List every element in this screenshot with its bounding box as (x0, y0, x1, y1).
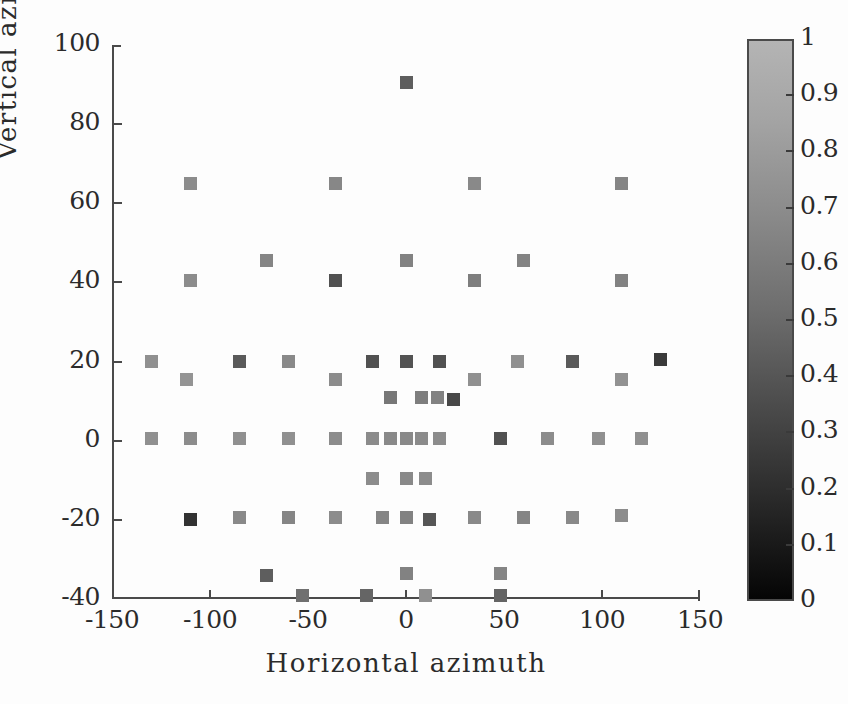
scatter-point (423, 513, 436, 526)
scatter-point (180, 373, 193, 386)
y-tick-mark (113, 519, 122, 521)
axis-right-corner-tick (698, 590, 700, 601)
scatter-point (419, 589, 432, 602)
scatter-point (400, 254, 413, 267)
scatter-point (615, 177, 628, 190)
scatter-point (635, 432, 648, 445)
scatter-point (400, 76, 413, 89)
scatter-point (329, 177, 342, 190)
colorbar-tick-mark (786, 263, 794, 265)
y-tick-label: 20 (5, 345, 100, 374)
x-tick-mark (209, 590, 211, 599)
scatter-point (494, 567, 507, 580)
y-tick-mark (113, 123, 122, 125)
figure-root: -40-20020406080100 -150-100-50050100150 … (0, 0, 848, 704)
colorbar-tick-label: 0.5 (800, 303, 838, 332)
scatter-point (329, 274, 342, 287)
colorbar-tick-label: 0.6 (800, 247, 838, 276)
y-tick-mark (113, 281, 122, 283)
colorbar-tick-label: 0.7 (800, 191, 838, 220)
scatter-point (415, 391, 428, 404)
colorbar-tick-label: 0.9 (800, 78, 838, 107)
y-tick-label: 0 (5, 424, 100, 453)
scatter-point (329, 511, 342, 524)
scatter-point (384, 391, 397, 404)
scatter-point (260, 569, 273, 582)
colorbar-tick-label: 0.8 (800, 134, 838, 163)
scatter-point (329, 373, 342, 386)
scatter-point (433, 355, 446, 368)
scatter-point (184, 432, 197, 445)
colorbar-tick-label: 1 (800, 22, 815, 51)
scatter-point (592, 432, 605, 445)
scatter-point (376, 511, 389, 524)
x-tick-label: -150 (62, 605, 162, 634)
x-tick-mark (405, 590, 407, 599)
scatter-point (366, 355, 379, 368)
x-tick-label: -50 (258, 605, 358, 634)
colorbar-tick-mark (786, 207, 794, 209)
scatter-point (615, 509, 628, 522)
scatter-point (366, 432, 379, 445)
scatter-point (233, 511, 246, 524)
scatter-point (282, 511, 295, 524)
x-tick-label: 150 (650, 605, 750, 634)
scatter-point (233, 432, 246, 445)
scatter-point (494, 432, 507, 445)
y-tick-mark (113, 361, 122, 363)
scatter-point (566, 511, 579, 524)
scatter-point (447, 393, 460, 406)
scatter-point (468, 274, 481, 287)
scatter-point (615, 373, 628, 386)
scatter-point (329, 432, 342, 445)
scatter-point (494, 589, 507, 602)
colorbar-tick-mark (786, 150, 794, 152)
x-tick-mark (601, 590, 603, 599)
scatter-point (654, 353, 667, 366)
scatter-point (541, 432, 554, 445)
scatter-point (282, 432, 295, 445)
scatter-point (400, 355, 413, 368)
colorbar-tick-label: 0.3 (800, 415, 838, 444)
scatter-point (400, 511, 413, 524)
colorbar-tick-mark (786, 375, 794, 377)
scatter-point (615, 274, 628, 287)
scatter-point (366, 472, 379, 485)
colorbar-tick-mark (786, 319, 794, 321)
scatter-point (419, 472, 432, 485)
scatter-point (400, 567, 413, 580)
scatter-point (233, 355, 246, 368)
scatter-point (400, 432, 413, 445)
scatter-point (296, 589, 309, 602)
scatter-point (468, 177, 481, 190)
colorbar-tick-label: 0 (800, 584, 815, 613)
scatter-point (566, 355, 579, 368)
scatter-point (260, 254, 273, 267)
scatter-point (184, 177, 197, 190)
colorbar-tick-mark (786, 431, 794, 433)
colorbar-tick-mark (786, 488, 794, 490)
scatter-point (145, 432, 158, 445)
colorbar-tick-label: 0.4 (800, 359, 838, 388)
axis-top-corner-tick (112, 45, 121, 47)
scatter-point (433, 432, 446, 445)
y-tick-mark (113, 202, 122, 204)
x-tick-label: -100 (160, 605, 260, 634)
x-tick-label: 50 (454, 605, 554, 634)
y-tick-label: 40 (5, 265, 100, 294)
colorbar-tick-label: 0.1 (800, 528, 838, 557)
x-tick-label: 0 (356, 605, 456, 634)
scatter-point (468, 511, 481, 524)
colorbar-tick-label: 0.2 (800, 472, 838, 501)
colorbar-tick-mark (786, 544, 794, 546)
scatter-point (431, 391, 444, 404)
scatter-point (468, 373, 481, 386)
scatter-point (517, 511, 530, 524)
y-axis-title: Vertical azimuth (0, 0, 22, 160)
scatter-point (384, 432, 397, 445)
y-tick-mark (113, 440, 122, 442)
scatter-point (360, 589, 373, 602)
scatter-point (184, 513, 197, 526)
colorbar-tick-mark (786, 94, 794, 96)
x-axis-title: Horizontal azimuth (112, 648, 700, 678)
